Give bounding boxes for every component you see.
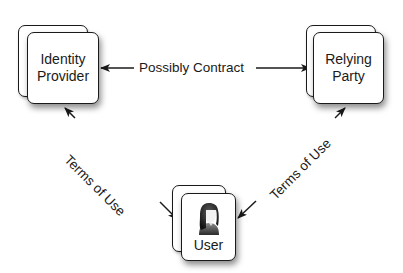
identity-provider-card[interactable]: Identity Provider	[27, 32, 99, 104]
relying-party-label-line2: Party	[332, 68, 365, 85]
relying-party-card[interactable]: Relying Party	[313, 32, 384, 104]
identity-provider-label-line1: Identity	[40, 51, 85, 68]
identity-provider-label-line2: Provider	[37, 68, 89, 85]
possibly-contract-label: Possibly Contract	[139, 60, 244, 75]
relying-party-label-line1: Relying	[325, 51, 372, 68]
user-label: User	[194, 237, 224, 254]
person-avatar-icon	[196, 202, 222, 236]
terms-of-use-right-connector	[238, 108, 345, 218]
user-card[interactable]: User	[181, 193, 236, 261]
